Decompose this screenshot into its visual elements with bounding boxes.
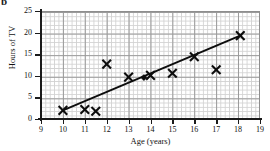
data-point-marker <box>168 69 177 78</box>
chart-figure: b 25 20 15 10 5 0 9 10 11 12 13 14 15 16… <box>0 0 270 151</box>
data-point-marker <box>124 73 133 82</box>
data-point-marker <box>102 60 111 69</box>
data-point-marker <box>81 105 90 114</box>
data-point-marker <box>212 65 221 74</box>
data-point-marker <box>91 107 100 116</box>
data-point-marker <box>236 31 245 40</box>
scatter-points-group <box>59 31 245 115</box>
chart-data-overlay <box>0 0 270 151</box>
data-point-marker <box>59 106 68 115</box>
